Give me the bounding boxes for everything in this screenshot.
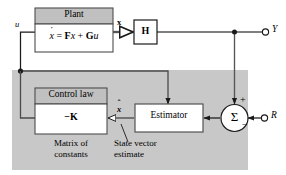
hat-accent-mark: ˆ <box>117 100 121 108</box>
junction-dot-output <box>232 30 237 35</box>
control-law-block-title: Control law <box>35 90 107 100</box>
estimator-caption: State vector estimate <box>114 138 200 160</box>
control-law-caption-line2: constants <box>26 149 116 160</box>
estimator-caption-line1: State vector <box>114 138 200 149</box>
state-derivative-symbol: x˙ <box>49 31 53 42</box>
plant-equation: x˙ = Fx + Gu <box>35 31 113 42</box>
output-gain-label: H <box>134 26 157 37</box>
estimator-caption-line2: estimate <box>114 149 200 160</box>
summing-sign-positive: + <box>240 95 246 106</box>
control-law-caption: Matrix of constants <box>26 138 116 160</box>
plant-block-title: Plant <box>35 10 113 20</box>
reference-terminal-label: R <box>271 111 277 121</box>
signal-label-x-hat: xˆ <box>117 105 121 114</box>
output-terminal-label: Y <box>272 25 277 35</box>
block-diagram-figure: Plant x˙ = Fx + Gu u x H Y R Control law… <box>0 0 286 175</box>
signal-label-x: x <box>117 18 121 27</box>
output-terminal-node[interactable] <box>262 29 268 35</box>
equation-input-u: u <box>94 30 99 41</box>
reference-terminal-node[interactable] <box>261 115 267 121</box>
estimator-label: Estimator <box>135 111 203 121</box>
signal-label-u: u <box>15 20 19 29</box>
derivative-dot-mark: ˙ <box>49 27 53 35</box>
summing-sign-negative: − <box>242 120 248 131</box>
control-law-gain-label: −K <box>35 112 107 123</box>
equation-plus: + <box>78 30 84 41</box>
equation-matrix-g: G <box>86 30 94 41</box>
equation-state-x: x <box>71 30 75 41</box>
control-law-caption-line1: Matrix of <box>26 138 116 149</box>
equation-equals: = <box>56 30 62 41</box>
